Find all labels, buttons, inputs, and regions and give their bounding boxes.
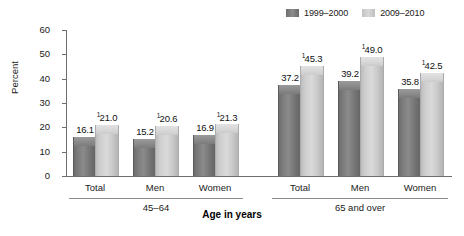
x-category-label-4564-women: Women	[199, 182, 232, 193]
bar-value-label: 121.0	[97, 111, 118, 123]
x-category-label-4564-men: Men	[146, 182, 164, 193]
legend-swatch-1999-2000	[286, 9, 299, 17]
y-tick-60	[62, 30, 66, 31]
x-category-label-65over-men: Men	[351, 182, 369, 193]
group-label-4564: 45–64	[143, 202, 169, 213]
bar-value-label: 37.2	[281, 72, 299, 83]
bar-1999-2000-65over-total: 37.2	[278, 85, 302, 176]
y-tick-label-30: 30	[30, 97, 50, 108]
x-category-label-65over-total: Total	[290, 182, 310, 193]
y-tick-label-0: 0	[30, 170, 50, 181]
bar-value-label: 39.2	[341, 68, 359, 79]
bar-value-label: 121.3	[217, 111, 238, 123]
group-rule-65over	[272, 198, 448, 199]
bar-1999-2000-4564-total: 16.1	[73, 137, 97, 176]
bar-value-label: 16.1	[76, 124, 94, 135]
bar-value-label: 120.6	[157, 112, 178, 124]
x-category-label-4564-total: Total	[85, 182, 105, 193]
bar-value-label: 142.5	[422, 59, 443, 71]
y-tick-40	[62, 79, 66, 80]
bar-chart-figure: 1999–2000 2009–2010 Percent 60 50 40 30 …	[0, 0, 464, 236]
chart-legend: 1999–2000 2009–2010	[286, 8, 424, 18]
y-tick-20	[62, 127, 66, 128]
bar-1999-2000-4564-women: 16.9	[193, 135, 217, 176]
legend-label-2009-2010: 2009–2010	[380, 8, 424, 18]
y-tick-30	[62, 103, 66, 104]
y-tick-10	[62, 152, 66, 153]
bar-value-label: 16.9	[196, 122, 214, 133]
bar-1999-2000-4564-men: 15.2	[133, 139, 157, 176]
bar-value-label: 15.2	[136, 126, 154, 137]
y-tick-label-20: 20	[30, 121, 50, 132]
bar-2009-2010-4564-women: 121.3	[215, 124, 239, 176]
legend-entry-1999-2000: 1999–2000	[286, 8, 348, 18]
legend-entry-2009-2010: 2009–2010	[362, 8, 424, 18]
bar-2009-2010-65over-men: 149.0	[360, 57, 384, 176]
bar-2009-2010-65over-women: 142.5	[420, 73, 444, 176]
group-label-65over: 65 and over	[335, 202, 385, 213]
legend-label-1999-2000: 1999–2000	[304, 8, 348, 18]
bar-value-label: 35.8	[401, 76, 419, 87]
bar-2009-2010-4564-men: 120.6	[155, 126, 179, 176]
bar-1999-2000-65over-men: 39.2	[338, 81, 362, 176]
x-category-label-65over-women: Women	[404, 182, 437, 193]
y-tick-50	[62, 54, 66, 55]
group-rule-4564	[69, 198, 243, 199]
bar-2009-2010-4564-total: 121.0	[95, 125, 119, 176]
legend-swatch-2009-2010	[362, 9, 375, 17]
y-tick-label-10: 10	[30, 146, 50, 157]
y-tick-label-50: 50	[30, 48, 50, 59]
bar-value-label: 149.0	[362, 43, 383, 55]
y-tick-0	[62, 176, 66, 177]
bar-1999-2000-65over-women: 35.8	[398, 89, 422, 176]
y-axis-line	[66, 30, 67, 176]
y-axis-title: Percent	[9, 61, 20, 94]
x-axis-title: Age in years	[202, 209, 261, 220]
bar-value-label: 145.3	[302, 52, 323, 64]
bar-2009-2010-65over-total: 145.3	[300, 66, 324, 176]
y-tick-label-40: 40	[30, 73, 50, 84]
plot-area: 60 50 40 30 20 10 0 16.1 121.0 15.2 120.…	[66, 30, 452, 176]
y-tick-label-60: 60	[30, 24, 50, 35]
x-axis-line	[66, 176, 452, 177]
